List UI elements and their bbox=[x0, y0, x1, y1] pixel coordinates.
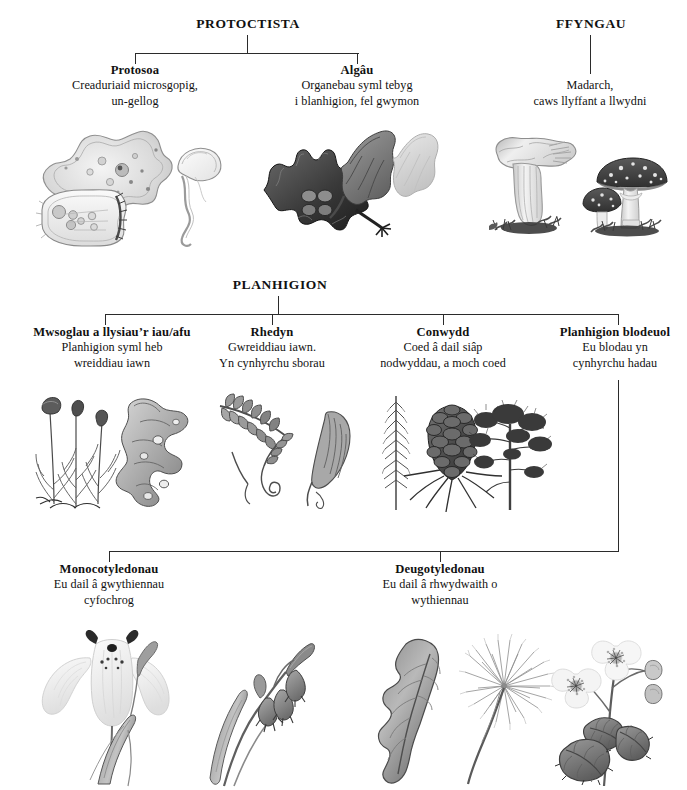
group-rhedyn-desc-line2: Yn cynhyrchu sborau bbox=[219, 356, 325, 372]
vorticella-shape bbox=[178, 148, 221, 245]
dandelion-shape bbox=[379, 634, 556, 784]
kingdom-title-ffyngau: FFYNGAU bbox=[556, 16, 626, 32]
group-protosoa-name: Protosoa bbox=[72, 62, 198, 78]
moss-shape bbox=[36, 397, 120, 508]
connector-cotyledon-rail bbox=[109, 551, 619, 552]
dandelion-seedhead-shape bbox=[459, 634, 556, 730]
flyagaric-mushroom-shape bbox=[583, 158, 667, 237]
group-monocotyledonau: Monocotyledonau Eu dail â gwythiennau cy… bbox=[54, 561, 164, 608]
bramble-flower-shape bbox=[552, 641, 662, 786]
group-planhigion-blodeuol-desc-line2: cynhyrchu hadau bbox=[560, 356, 670, 372]
group-mwsoglau-desc-line2: wreiddiau iawn bbox=[33, 356, 191, 372]
iris-flower-shape bbox=[42, 630, 169, 786]
group-madarch-desc-line2: caws llyffant a llwydni bbox=[534, 94, 647, 110]
classification-diagram: PROTOCTISTA FFYNGAU PLANHIGION Protosoa … bbox=[0, 0, 687, 790]
group-protosoa-desc-line1: Creaduriaid microsgopig, bbox=[72, 78, 198, 94]
group-mwsoglau-name: Mwsoglau a llysiau’r iau/afu bbox=[33, 324, 191, 340]
group-planhigion-blodeuol-name: Planhigion blodeuol bbox=[560, 324, 670, 340]
group-conwydd-desc-line1: Coed â dail siâp bbox=[380, 340, 506, 356]
connector-planhigion-stem bbox=[278, 296, 279, 315]
fern-fertile-frond-shape bbox=[307, 412, 350, 509]
group-deugotyledonau: Deugotyledonau Eu dail â rhwydwaith o wy… bbox=[383, 561, 498, 608]
ffyngau-illustration bbox=[487, 130, 682, 252]
liverwort-shape bbox=[116, 399, 188, 506]
group-deugotyledonau-name: Deugotyledonau bbox=[383, 561, 498, 577]
group-rhedyn: Rhedyn Gwreiddiau iawn. Yn cynhyrchu sbo… bbox=[219, 324, 325, 371]
deugot-illustration bbox=[352, 628, 672, 788]
fern-frond-shape bbox=[220, 394, 293, 504]
protosoa-illustration bbox=[30, 126, 225, 254]
group-algau: Algâu Organebau syml tebyg i blanhigion,… bbox=[295, 62, 419, 109]
group-mwsoglau-desc-line1: Planhigion syml heb bbox=[33, 340, 191, 356]
kingdom-title-protoctista: PROTOCTISTA bbox=[196, 16, 300, 32]
group-rhedyn-name: Rhedyn bbox=[219, 324, 325, 340]
group-algau-name: Algâu bbox=[295, 62, 419, 78]
sealettuce-shape bbox=[393, 134, 438, 197]
group-protosoa: Protosoa Creaduriaid microsgopig, un-gel… bbox=[72, 62, 198, 109]
group-monocotyledonau-name: Monocotyledonau bbox=[54, 561, 164, 577]
algau-illustration bbox=[252, 128, 442, 254]
group-rhedyn-desc-line1: Gwreiddiau iawn. bbox=[219, 340, 325, 356]
paramecium-shape bbox=[36, 190, 127, 246]
group-protosoa-desc-line2: un-gellog bbox=[72, 94, 198, 110]
connector-planhigion-rail bbox=[105, 314, 619, 315]
monocot-illustration bbox=[28, 628, 318, 788]
connector-protoctista-stem bbox=[247, 35, 248, 54]
conwydd-illustration bbox=[382, 388, 557, 514]
group-algau-desc-line2: i blanhigion, fel gwymon bbox=[295, 94, 419, 110]
bramble-white-flower-2 bbox=[552, 669, 601, 708]
group-conwydd-desc-line2: nodwyddau, a moch coed bbox=[380, 356, 506, 372]
kingdom-title-planhigion: PLANHIGION bbox=[233, 277, 328, 293]
group-madarch-desc-line1: Madarch, bbox=[534, 78, 647, 94]
chanterelle-mushroom-shape bbox=[489, 138, 576, 234]
group-conwydd: Conwydd Coed â dail siâp nodwyddau, a mo… bbox=[380, 324, 506, 371]
group-madarch: Madarch, caws llyffant a llwydni bbox=[534, 78, 647, 109]
group-planhigion-blodeuol: Planhigion blodeuol Eu blodau yn cynhyrc… bbox=[560, 324, 670, 371]
group-mwsoglau: Mwsoglau a llysiau’r iau/afu Planhigion … bbox=[33, 324, 191, 371]
group-planhigion-blodeuol-desc-line1: Eu blodau yn bbox=[560, 340, 670, 356]
connector-protoctista-rail bbox=[135, 53, 359, 54]
group-algau-desc-line1: Organebau syml tebyg bbox=[295, 78, 419, 94]
bluebell-flower-shape bbox=[210, 644, 315, 786]
group-conwydd-name: Conwydd bbox=[380, 324, 506, 340]
group-monocotyledonau-desc-line2: cyfochrog bbox=[54, 593, 164, 609]
rhedyn-illustration bbox=[210, 392, 360, 510]
mwsoglau-illustration bbox=[30, 392, 195, 510]
pine-tree-shape bbox=[469, 400, 552, 510]
spruce-tree-shape bbox=[382, 396, 410, 510]
group-monocotyledonau-desc-line1: Eu dail â gwythiennau bbox=[54, 577, 164, 593]
group-deugotyledonau-desc-line1: Eu dail â rhwydwaith o bbox=[383, 577, 498, 593]
connector-blodeuol-stem bbox=[618, 380, 619, 552]
group-deugotyledonau-desc-line2: wythiennau bbox=[383, 593, 498, 609]
connector-ffyngau-stem bbox=[590, 35, 591, 74]
